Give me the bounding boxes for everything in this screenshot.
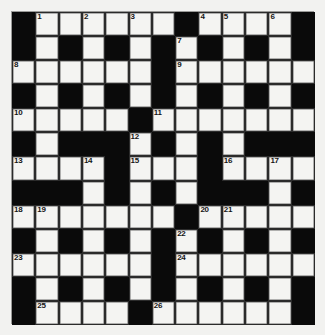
grid-open-cell[interactable]	[175, 156, 198, 180]
grid-open-cell[interactable]	[245, 205, 268, 229]
grid-open-cell[interactable]	[82, 181, 105, 205]
grid-open-cell[interactable]: 6	[268, 12, 291, 36]
grid-open-cell[interactable]	[35, 36, 58, 60]
grid-open-cell[interactable]	[152, 205, 175, 229]
grid-open-cell[interactable]	[175, 181, 198, 205]
grid-open-cell[interactable]: 12	[129, 132, 152, 156]
grid-open-cell[interactable]	[268, 205, 291, 229]
grid-open-cell[interactable]	[105, 60, 128, 84]
grid-open-cell[interactable]	[222, 253, 245, 277]
grid-open-cell[interactable]	[222, 229, 245, 253]
grid-open-cell[interactable]	[59, 60, 82, 84]
grid-open-cell[interactable]	[59, 108, 82, 132]
grid-open-cell[interactable]	[268, 181, 291, 205]
grid-open-cell[interactable]	[198, 301, 221, 325]
grid-open-cell[interactable]	[198, 108, 221, 132]
grid-open-cell[interactable]	[129, 229, 152, 253]
grid-open-cell[interactable]	[222, 277, 245, 301]
grid-open-cell[interactable]: 16	[222, 156, 245, 180]
grid-open-cell[interactable]	[105, 301, 128, 325]
grid-open-cell[interactable]	[292, 253, 315, 277]
grid-open-cell[interactable]: 19	[35, 205, 58, 229]
grid-open-cell[interactable]	[198, 253, 221, 277]
grid-open-cell[interactable]	[222, 36, 245, 60]
grid-open-cell[interactable]	[268, 229, 291, 253]
grid-open-cell[interactable]: 2	[82, 12, 105, 36]
grid-open-cell[interactable]	[35, 60, 58, 84]
grid-open-cell[interactable]: 10	[12, 108, 35, 132]
grid-open-cell[interactable]	[59, 205, 82, 229]
grid-open-cell[interactable]	[268, 301, 291, 325]
grid-open-cell[interactable]	[292, 108, 315, 132]
grid-open-cell[interactable]: 15	[129, 156, 152, 180]
grid-open-cell[interactable]	[59, 253, 82, 277]
grid-open-cell[interactable]	[82, 277, 105, 301]
grid-open-cell[interactable]	[292, 156, 315, 180]
grid-open-cell[interactable]	[82, 205, 105, 229]
grid-open-cell[interactable]	[105, 253, 128, 277]
grid-open-cell[interactable]	[129, 205, 152, 229]
grid-open-cell[interactable]	[59, 156, 82, 180]
grid-open-cell[interactable]	[129, 36, 152, 60]
grid-open-cell[interactable]	[129, 253, 152, 277]
grid-open-cell[interactable]: 23	[12, 253, 35, 277]
grid-open-cell[interactable]	[35, 277, 58, 301]
grid-open-cell[interactable]	[35, 132, 58, 156]
grid-open-cell[interactable]	[82, 36, 105, 60]
grid-open-cell[interactable]	[82, 108, 105, 132]
grid-open-cell[interactable]	[175, 301, 198, 325]
grid-open-cell[interactable]	[268, 60, 291, 84]
grid-open-cell[interactable]	[105, 205, 128, 229]
grid-open-cell[interactable]	[245, 60, 268, 84]
grid-open-cell[interactable]	[129, 277, 152, 301]
grid-open-cell[interactable]: 17	[268, 156, 291, 180]
grid-open-cell[interactable]	[198, 60, 221, 84]
grid-open-cell[interactable]: 3	[129, 12, 152, 36]
grid-open-cell[interactable]: 7	[175, 36, 198, 60]
grid-open-cell[interactable]	[222, 301, 245, 325]
grid-open-cell[interactable]: 9	[175, 60, 198, 84]
grid-open-cell[interactable]	[105, 12, 128, 36]
grid-open-cell[interactable]	[129, 181, 152, 205]
grid-open-cell[interactable]	[175, 277, 198, 301]
grid-open-cell[interactable]	[268, 108, 291, 132]
crossword-grid[interactable]: 1234567891011121314151617181920212223242…	[12, 12, 315, 325]
grid-open-cell[interactable]: 26	[152, 301, 175, 325]
grid-open-cell[interactable]	[245, 156, 268, 180]
grid-open-cell[interactable]: 13	[12, 156, 35, 180]
grid-open-cell[interactable]	[82, 229, 105, 253]
grid-open-cell[interactable]: 18	[12, 205, 35, 229]
grid-open-cell[interactable]: 21	[222, 205, 245, 229]
grid-open-cell[interactable]	[175, 84, 198, 108]
grid-open-cell[interactable]	[35, 253, 58, 277]
grid-open-cell[interactable]	[129, 84, 152, 108]
grid-open-cell[interactable]: 5	[222, 12, 245, 36]
grid-open-cell[interactable]: 11	[152, 108, 175, 132]
grid-open-cell[interactable]	[175, 108, 198, 132]
grid-open-cell[interactable]	[59, 12, 82, 36]
grid-open-cell[interactable]	[268, 277, 291, 301]
grid-open-cell[interactable]	[245, 108, 268, 132]
grid-open-cell[interactable]	[105, 108, 128, 132]
grid-open-cell[interactable]	[222, 108, 245, 132]
grid-open-cell[interactable]: 25	[35, 301, 58, 325]
grid-open-cell[interactable]: 4	[198, 12, 221, 36]
grid-open-cell[interactable]	[152, 12, 175, 36]
grid-open-cell[interactable]: 8	[12, 60, 35, 84]
grid-open-cell[interactable]: 14	[82, 156, 105, 180]
grid-open-cell[interactable]	[268, 36, 291, 60]
grid-open-cell[interactable]	[268, 84, 291, 108]
grid-open-cell[interactable]: 22	[175, 229, 198, 253]
grid-open-cell[interactable]: 24	[175, 253, 198, 277]
grid-open-cell[interactable]	[129, 60, 152, 84]
grid-open-cell[interactable]	[245, 253, 268, 277]
grid-open-cell[interactable]	[175, 132, 198, 156]
grid-open-cell[interactable]	[35, 229, 58, 253]
grid-open-cell[interactable]	[35, 108, 58, 132]
grid-open-cell[interactable]	[292, 60, 315, 84]
grid-open-cell[interactable]	[152, 156, 175, 180]
grid-open-cell[interactable]	[222, 132, 245, 156]
grid-open-cell[interactable]	[222, 60, 245, 84]
grid-open-cell[interactable]	[292, 205, 315, 229]
grid-open-cell[interactable]	[35, 84, 58, 108]
